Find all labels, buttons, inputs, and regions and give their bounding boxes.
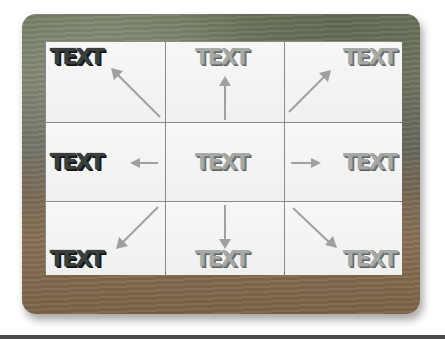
label-top-center: TEXT xyxy=(195,46,248,68)
arrow-down-left-icon xyxy=(114,205,160,251)
cell-top-center: TEXT xyxy=(166,42,284,122)
label-bottom-left: TEXT xyxy=(50,248,103,270)
cell-middle-right: TEXT xyxy=(285,123,402,201)
arrow-up-right-icon xyxy=(287,68,333,114)
cell-bottom-center: TEXT xyxy=(166,202,284,275)
cell-top-left: TEXT xyxy=(46,42,165,122)
arrow-down-right-icon xyxy=(291,206,339,250)
cell-top-right: TEXT xyxy=(285,42,402,122)
label-bottom-right: TEXT xyxy=(343,248,396,270)
arrow-right-icon xyxy=(291,157,321,169)
label-center: TEXT xyxy=(195,151,248,173)
label-top-right: TEXT xyxy=(343,46,396,68)
label-middle-right: TEXT xyxy=(343,151,396,173)
cell-middle-left: TEXT xyxy=(46,123,165,201)
bottom-rule xyxy=(0,335,445,339)
cell-center: TEXT xyxy=(166,123,284,201)
arrow-left-icon xyxy=(130,157,158,169)
label-top-left: TEXT xyxy=(50,46,103,68)
arrow-down-icon xyxy=(218,205,232,249)
label-middle-left: TEXT xyxy=(50,151,103,173)
arrow-up-left-icon xyxy=(108,65,164,121)
cell-bottom-right: TEXT xyxy=(285,202,402,275)
cell-bottom-left: TEXT xyxy=(46,202,165,275)
arrow-up-icon xyxy=(218,76,232,120)
label-bottom-center: TEXT xyxy=(195,248,248,270)
text-position-grid: TEXT TEXT TEXT TEXT TEXT TEXT xyxy=(45,41,399,272)
